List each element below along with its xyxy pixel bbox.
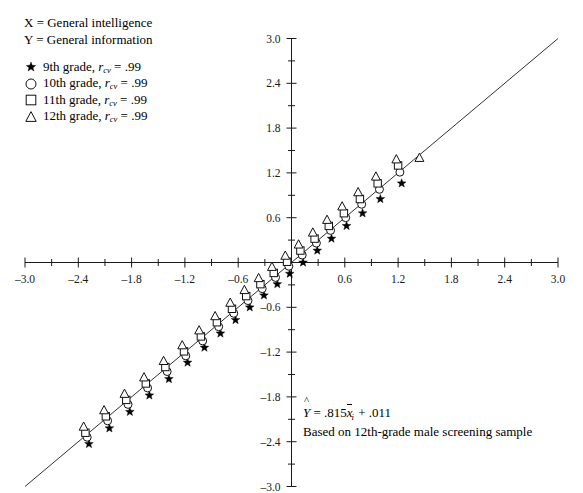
x-tick-label: 2.4 (498, 273, 513, 285)
data-point (100, 406, 109, 414)
data-point (323, 215, 332, 223)
y-tick-label: –1.8 (259, 391, 280, 403)
x-tick-label: 1.2 (391, 273, 406, 285)
data-point (79, 422, 88, 430)
x-tick-label: –0.6 (227, 273, 248, 285)
y-tick-label: –0.6 (259, 301, 280, 313)
y-tick-label: 1.2 (266, 167, 281, 179)
x-tick-label: –1.2 (174, 273, 195, 285)
series-11th-grade (82, 162, 402, 437)
data-point (120, 389, 129, 397)
y-hat-symbol: ^Y (303, 404, 310, 421)
data-point (374, 180, 381, 187)
data-point (211, 311, 220, 319)
data-point (195, 326, 204, 334)
data-point (159, 356, 168, 364)
data-point (338, 202, 347, 210)
y-hat-letter: Y (303, 405, 310, 420)
x-tick-label: –3.0 (14, 273, 35, 285)
x-tick-label: 3.0 (551, 273, 566, 285)
regression-equation: ^Y = .815xi + .011 (303, 404, 532, 423)
data-point (308, 228, 317, 236)
regression-annotation: ^Y = .815xi + .011 Based on 12th-grade m… (303, 404, 532, 440)
y-tick-label: 0.6 (266, 212, 281, 224)
data-point (254, 273, 263, 281)
y-tick-label: –3.0 (259, 481, 280, 493)
data-point (397, 179, 406, 187)
y-tick-label: 1.8 (266, 122, 281, 134)
data-point (240, 285, 249, 293)
data-point (376, 194, 385, 202)
x-tick-label: 0.6 (338, 273, 353, 285)
y-tick-label: –2.4 (259, 436, 280, 448)
x-tick-label: 1.8 (444, 273, 459, 285)
data-point (354, 188, 363, 196)
y-tick-label: 2.4 (266, 77, 281, 89)
equation-body: = .815 (310, 405, 347, 420)
data-point (392, 155, 401, 163)
data-point (356, 195, 363, 202)
x-tick-label: –2.4 (67, 273, 88, 285)
equation-suffix: + .011 (355, 405, 391, 420)
data-point (140, 373, 149, 381)
series-10th-grade (83, 168, 404, 441)
data-point (281, 251, 290, 259)
x-tick-label: –1.8 (121, 273, 142, 285)
data-point (342, 221, 351, 229)
bar-accent (347, 404, 352, 405)
data-point (268, 262, 277, 270)
data-point (358, 209, 367, 217)
data-point (371, 172, 380, 180)
chart-page: X = General intelligence Y = General inf… (0, 0, 583, 493)
x-subscript: i (352, 412, 354, 422)
sample-note: Based on 12th-grade male screening sampl… (303, 423, 532, 440)
data-point (226, 298, 235, 306)
data-point (327, 234, 336, 242)
data-point (178, 341, 187, 349)
data-point (340, 210, 347, 217)
y-tick-label: 3.0 (266, 33, 281, 45)
y-tick-label: –1.2 (259, 346, 280, 358)
data-point (294, 240, 303, 248)
hat-accent: ^ (304, 395, 309, 406)
